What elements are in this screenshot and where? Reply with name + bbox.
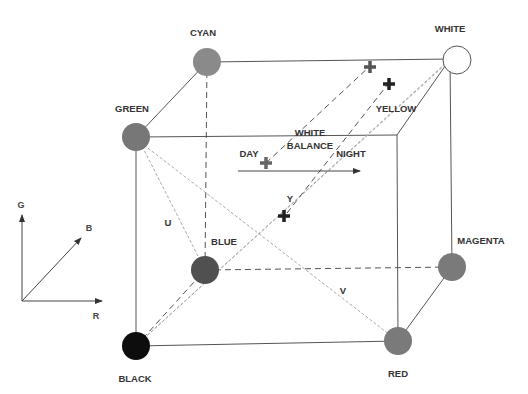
edge-cyan-white <box>207 59 450 62</box>
vertex-white <box>443 46 471 74</box>
edge-black-red <box>136 341 398 346</box>
label-white-balance-2: BALANCE <box>287 140 333 151</box>
vertex-magenta <box>438 253 466 281</box>
label-r-axis: R <box>93 311 100 321</box>
b-axis-arrow <box>22 238 81 301</box>
vertex-labels: CYAN WHITE GREEN YELLOW BLUE MAGENTA BLA… <box>115 23 505 384</box>
label-yellow: YELLOW <box>376 103 417 114</box>
label-black: BLACK <box>118 373 151 384</box>
vertex-green <box>122 123 150 151</box>
label-magenta: MAGENTA <box>457 235 504 246</box>
label-day: DAY <box>239 148 259 159</box>
label-white: WHITE <box>435 23 466 34</box>
label-blue: BLUE <box>211 236 237 247</box>
label-y: Y <box>287 193 294 204</box>
vertex-cyan <box>193 48 221 76</box>
label-night: NIGHT <box>336 148 366 159</box>
edge-green-yellow <box>136 135 397 137</box>
label-g-axis: G <box>17 200 24 210</box>
label-red: RED <box>388 368 408 379</box>
edge-yellow-white <box>397 59 450 135</box>
u-axis-line <box>140 142 203 266</box>
edge-yellow-red <box>397 135 398 341</box>
vertex-red <box>384 327 412 355</box>
edge-blue-magenta <box>205 267 452 270</box>
rgb-axes-legend: G B R <box>17 200 102 321</box>
label-u: U <box>165 217 172 228</box>
edge-cyan-blue <box>205 62 207 270</box>
edge-white-magenta <box>450 59 452 267</box>
edge-black-blue <box>136 270 205 346</box>
label-cyan: CYAN <box>190 27 216 38</box>
label-b-axis: B <box>86 223 93 233</box>
edge-green-cyan <box>136 62 207 137</box>
vertex-blue <box>191 256 219 284</box>
upper-day-cross-icon <box>364 61 376 73</box>
vertex-black <box>122 332 150 360</box>
label-v: V <box>340 285 347 296</box>
upper-night-cross-icon <box>383 78 395 90</box>
label-green: GREEN <box>115 103 149 114</box>
label-white-balance-1: WHITE <box>295 127 326 138</box>
rgb-cube-diagram: CYAN WHITE GREEN YELLOW BLUE MAGENTA BLA… <box>0 0 528 394</box>
